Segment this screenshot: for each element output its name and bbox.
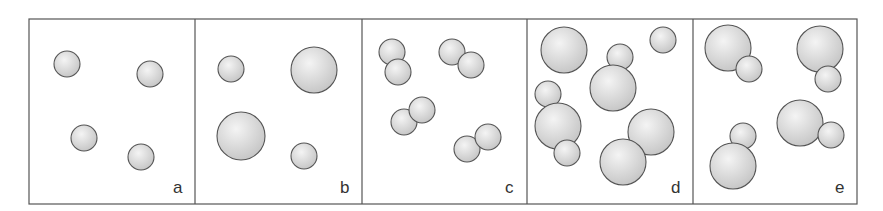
particle-circle [217,112,265,160]
panel-c: c [362,19,514,204]
particle-circle [128,144,154,170]
particle-circle [291,47,337,93]
particle-circle [385,59,411,85]
panel-d: d [527,19,680,204]
panel-label: d [671,178,680,197]
panel-label: c [505,178,514,197]
panel-label: a [173,178,183,197]
particle-circle [409,97,435,123]
panel-label: e [835,178,844,197]
particle-circle [600,139,646,185]
particle-circle [710,143,756,189]
particle-circle [590,65,636,111]
panel-e: e [693,19,844,204]
particle-circle [71,125,97,151]
particle-circle [541,27,587,73]
particle-circle [54,51,80,77]
particle-circle [650,27,676,53]
panel-b: b [195,19,349,204]
diagram-canvas: abcde [0,0,883,211]
particle-circle [475,124,501,150]
panel-a: a [54,51,183,197]
particle-circle [797,26,843,72]
particle-circle [736,56,762,82]
particle-circle [554,140,580,166]
particle-circle [818,122,844,148]
particle-circle [777,100,823,146]
particle-circle [218,56,244,82]
particle-circle [458,52,484,78]
particle-circle [291,143,317,169]
panels-layer: abcde [54,19,844,204]
particle-circle [137,61,163,87]
particle-circle [815,66,841,92]
particle-diagram: abcde [0,0,883,211]
panel-label: b [340,178,349,197]
